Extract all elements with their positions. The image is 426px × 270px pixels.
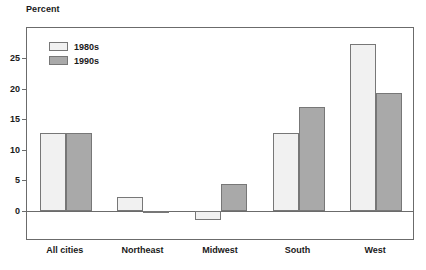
y-axis-tick xyxy=(22,180,27,181)
x-axis-label: Midwest xyxy=(202,245,238,255)
plot-area: 0510152025 1980s 1990s xyxy=(26,27,414,240)
bar xyxy=(66,133,92,211)
y-axis-tick-label: 15 xyxy=(10,114,20,124)
bar xyxy=(195,211,221,220)
bar xyxy=(299,107,325,210)
y-axis-tick xyxy=(22,58,27,59)
legend-swatch-1980s xyxy=(49,42,68,51)
x-axis-label: West xyxy=(365,245,386,255)
y-axis-tick-label: 20 xyxy=(10,84,20,94)
legend-label-1990s: 1990s xyxy=(74,56,99,66)
bar xyxy=(350,44,376,210)
legend-label-1980s: 1980s xyxy=(74,42,99,52)
y-axis-tick-label: 10 xyxy=(10,145,20,155)
y-axis-title: Percent xyxy=(26,4,60,14)
bar xyxy=(117,197,143,211)
bar xyxy=(221,184,247,210)
y-axis-tick-label: 25 xyxy=(10,53,20,63)
bar xyxy=(376,93,402,210)
legend-item-1980s: 1980s xyxy=(49,40,99,53)
y-axis-tick xyxy=(22,119,27,120)
bar xyxy=(143,211,169,213)
y-axis-tick xyxy=(22,150,27,151)
y-axis-tick xyxy=(22,211,27,212)
chart-legend: 1980s 1990s xyxy=(49,40,99,68)
x-axis-label: South xyxy=(285,245,311,255)
y-axis-tick-label: 0 xyxy=(15,206,20,216)
bar-chart: Percent 0510152025 1980s 1990s All citie… xyxy=(0,0,426,270)
bar xyxy=(273,133,299,211)
x-axis-label: All cities xyxy=(46,245,83,255)
legend-item-1990s: 1990s xyxy=(49,54,99,67)
x-axis-label: Northeast xyxy=(121,245,163,255)
bar xyxy=(40,133,66,211)
legend-swatch-1990s xyxy=(49,56,68,65)
y-axis-tick xyxy=(22,89,27,90)
y-axis-tick-label: 5 xyxy=(15,175,20,185)
